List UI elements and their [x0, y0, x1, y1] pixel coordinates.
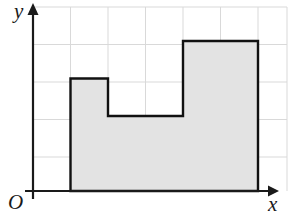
shaded-region-polygon	[71, 41, 259, 191]
coordinate-plane-figure	[0, 0, 290, 219]
y-axis-label: y	[14, 1, 23, 22]
x-axis-label: x	[268, 194, 277, 215]
figure-container: y x O	[0, 0, 290, 219]
origin-label: O	[8, 192, 23, 213]
y-axis-arrowhead	[28, 3, 39, 15]
